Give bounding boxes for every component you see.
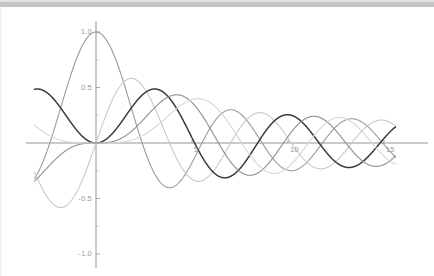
y-tick-label-1neg0: 1.0 <box>70 27 92 36</box>
x-tick-label-5: 5 <box>194 145 198 154</box>
y-tick-label-0neg5: 0.5 <box>70 83 92 92</box>
y-tick-label-neg1-0: -1.0 <box>70 249 92 258</box>
curves-group <box>35 32 396 208</box>
plot-canvas <box>0 0 434 276</box>
chart-figure: 1.00.5-0.5-1.051015 <box>0 0 434 276</box>
x-tick-label-10: 10 <box>290 145 299 154</box>
axes-group <box>26 21 428 268</box>
y-tick-label-neg0-5: -0.5 <box>70 194 92 203</box>
x-tick-label-15: 15 <box>386 145 395 154</box>
